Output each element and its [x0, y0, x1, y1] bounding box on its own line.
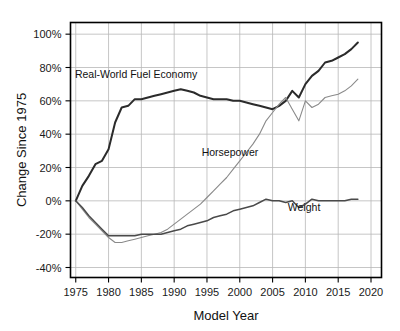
fuel-economy-chart: -40%-20%0%20%40%60%80%100%19751980198519… [0, 0, 400, 331]
y-tick-label: 60% [39, 95, 61, 107]
y-tick-label: 0% [46, 195, 62, 207]
x-tick-label: 1975 [64, 286, 88, 298]
x-tick-label: 1995 [195, 286, 219, 298]
y-axis-title: Change Since 1975 [14, 93, 29, 207]
y-tick-label: -20% [36, 228, 62, 240]
x-tick-label: 1990 [162, 286, 186, 298]
x-tick-label: 1980 [96, 286, 120, 298]
series-line-real-world-fuel-economy [76, 43, 358, 201]
series-label-real-world-fuel-economy: Real-World Fuel Economy [75, 68, 198, 80]
x-axis-title: Model Year [193, 308, 259, 323]
series-label-horsepower: Horsepower [202, 146, 259, 158]
x-tick-label: 2020 [359, 286, 383, 298]
y-tick-label: 100% [33, 28, 61, 40]
y-tick-label: 20% [39, 162, 61, 174]
y-tick-label: 80% [39, 62, 61, 74]
y-tick-label: 40% [39, 128, 61, 140]
chart-container: -40%-20%0%20%40%60%80%100%19751980198519… [0, 0, 400, 331]
series-label-weight: Weight [288, 201, 321, 213]
x-tick-label: 2015 [326, 286, 350, 298]
y-tick-label: -40% [36, 262, 62, 274]
x-tick-label: 2005 [260, 286, 284, 298]
x-tick-label: 1985 [129, 286, 153, 298]
x-tick-label: 2010 [293, 286, 317, 298]
series-line-horsepower [76, 79, 358, 242]
x-tick-label: 2000 [228, 286, 252, 298]
